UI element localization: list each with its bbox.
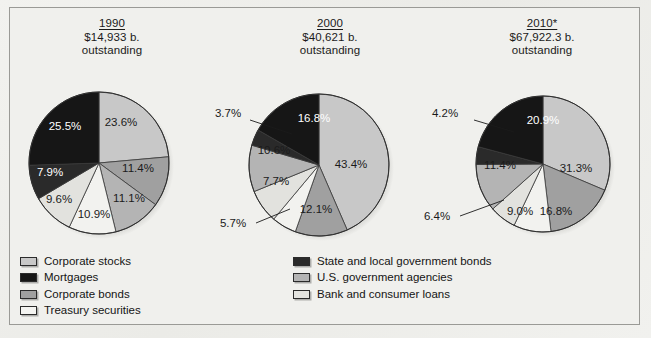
panel-year-2010: 2010*	[452, 17, 632, 31]
pie-2000-label-treasury-securities: 5.7%	[220, 217, 246, 229]
panel-amount-1990: $14,933 b.	[22, 31, 202, 45]
legend-label-corporate-bonds: Corporate bonds	[44, 288, 130, 301]
legend-item-mortgages: Mortgages	[20, 270, 141, 287]
legend-swatch-treasury-securities	[20, 306, 37, 315]
pie-1990-label-bank-consumer-loans: 9.6%	[46, 193, 72, 205]
pie-2010-svg: 31.3% 16.8% 9.0% 6.4% 11.4% 4.2% 20.9%	[418, 82, 633, 257]
legend-label-us-govt-agencies: U.S. government agencies	[317, 271, 453, 284]
pie-1990-label-mortgages: 25.5%	[49, 120, 82, 132]
legend-label-state-local-bonds: State and local government bonds	[317, 255, 492, 268]
pie-2000-svg: 43.4% 12.1% 5.7% 7.7% 10.6% 3.7% 16.8%	[204, 78, 419, 256]
pie-2010-label-corporate-stocks: 31.3%	[560, 162, 593, 174]
pie-2010-label-corporate-bonds: 16.8%	[540, 205, 573, 217]
pie-2010-label-treasury-securities: 9.0%	[507, 205, 533, 217]
legend-item-corporate-stocks: Corporate stocks	[20, 253, 141, 270]
pie-1990-label-state-local-bonds: 7.9%	[37, 166, 63, 178]
pie-2000-label-corporate-bonds: 12.1%	[300, 203, 333, 215]
panel-year-1990: 1990	[22, 17, 202, 31]
legend-item-bank-consumer-loans: Bank and consumer loans	[293, 286, 492, 303]
panel-header-2000: 2000 $40,621 b. outstanding	[240, 17, 420, 58]
pie-1990-label-corporate-bonds: 11.4%	[122, 162, 154, 174]
panel-outstanding-2000: outstanding	[240, 44, 420, 58]
pie-2000-label-state-local-bonds: 3.7%	[215, 107, 241, 119]
pie-2010-label-bank-consumer-loans: 6.4%	[424, 210, 450, 222]
panel-outstanding-2010: outstanding	[452, 44, 632, 58]
legend-label-corporate-stocks: Corporate stocks	[44, 255, 131, 268]
pie-chart-2010: 31.3% 16.8% 9.0% 6.4% 11.4% 4.2% 20.9%	[418, 82, 633, 257]
pie-1990-label-corporate-stocks: 23.6%	[105, 116, 138, 128]
figure-canvas: 1990 $14,933 b. outstanding 2000 $40,621…	[0, 0, 651, 338]
pie-2000-label-bank-consumer-loans: 7.7%	[263, 175, 289, 187]
panel-header-2010: 2010* $67,922.3 b. outstanding	[452, 17, 632, 58]
legend-swatch-state-local-bonds	[293, 257, 310, 266]
legend-item-us-govt-agencies: U.S. government agencies	[293, 270, 492, 287]
legend-label-mortgages: Mortgages	[44, 271, 98, 284]
legend-swatch-corporate-bonds	[20, 290, 37, 299]
legend-swatch-mortgages	[20, 273, 37, 282]
legend-swatch-bank-consumer-loans	[293, 290, 310, 299]
legend-swatch-us-govt-agencies	[293, 273, 310, 282]
pie-1990-label-us-govt-agencies: 11.1%	[113, 192, 145, 204]
pie-2000-label-corporate-stocks: 43.4%	[335, 158, 368, 170]
panel-outstanding-1990: outstanding	[22, 44, 202, 58]
pie-2010-label-mortgages: 20.9%	[527, 114, 560, 126]
legend-label-bank-consumer-loans: Bank and consumer loans	[317, 288, 450, 301]
panel-amount-2000: $40,621 b.	[240, 31, 420, 45]
pie-chart-1990: 23.6% 11.4% 11.1% 10.9% 9.6% 7.9% 25.5%	[14, 78, 204, 248]
pie-1990-label-treasury-securities: 10.9%	[78, 208, 111, 220]
panel-amount-2010: $67,922.3 b.	[452, 31, 632, 45]
legend-item-state-local-bonds: State and local government bonds	[293, 253, 492, 270]
pie-2000-label-mortgages: 16.8%	[298, 112, 331, 124]
legend-swatch-corporate-stocks	[20, 257, 37, 266]
panel-header-1990: 1990 $14,933 b. outstanding	[22, 17, 202, 58]
pie-chart-2000: 43.4% 12.1% 5.7% 7.7% 10.6% 3.7% 16.8%	[204, 78, 419, 256]
legend-column-right: State and local government bonds U.S. go…	[293, 253, 492, 303]
legend-item-treasury-securities: Treasury securities	[20, 303, 141, 320]
pie-1990-svg: 23.6% 11.4% 11.1% 10.9% 9.6% 7.9% 25.5%	[14, 78, 204, 248]
pie-2010-label-state-local-bonds: 4.2%	[432, 107, 458, 119]
pie-2000-label-us-govt-agencies: 10.6%	[258, 144, 291, 156]
legend-column-left: Corporate stocks Mortgages Corporate bon…	[20, 253, 141, 319]
pie-2010-label-us-govt-agencies: 11.4%	[484, 159, 516, 171]
legend-item-corporate-bonds: Corporate bonds	[20, 286, 141, 303]
panel-year-2000: 2000	[240, 17, 420, 31]
legend-label-treasury-securities: Treasury securities	[44, 304, 141, 317]
